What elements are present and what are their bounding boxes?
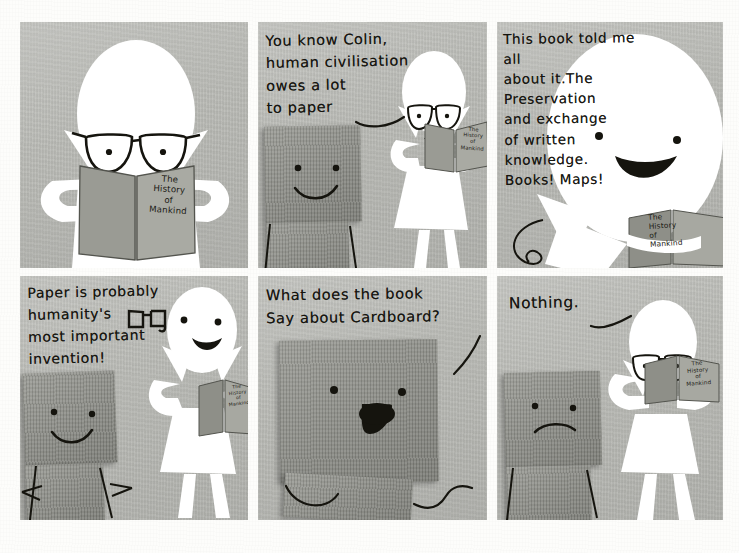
cardboard-limbs-p4 xyxy=(20,462,136,520)
comic-panel-2: You know Colin, human civilisation owes … xyxy=(258,22,487,268)
speech-tail-p6 xyxy=(589,312,635,332)
dialogue-p5: What does the book Say about Cardboard? xyxy=(266,281,483,330)
comic-panel-3: This book told me all about it.The Prese… xyxy=(497,22,723,268)
dialogue-p3: This book told me all about it.The Prese… xyxy=(503,27,657,190)
cardboard-face-p6 xyxy=(505,372,605,470)
cardboard-legs-p2 xyxy=(258,222,368,268)
cardboard-face-p5 xyxy=(280,340,440,486)
speech-tail-p5 xyxy=(450,334,484,384)
book-title-p6: The History of Mankind xyxy=(676,358,720,388)
book-title-p2: The History of Mankind xyxy=(455,125,487,152)
arm-swirl-p3 xyxy=(503,218,563,268)
book-title-p3: The History of Mankind xyxy=(648,210,710,250)
cardboard-face-p2 xyxy=(265,126,365,226)
comic-panel-1: The History of Mankind xyxy=(20,22,248,268)
comic-panel-4: Paper is probably humanity's most import… xyxy=(20,276,248,520)
cardboard-arms-p5 xyxy=(280,472,487,520)
comic-panel-6: Nothing. xyxy=(497,276,723,520)
speech-tail-p2 xyxy=(354,110,410,132)
book-title-p1: The History of Mankind xyxy=(139,172,199,217)
cardboard-face-p4 xyxy=(24,372,120,468)
cardboard-legs-p6 xyxy=(499,464,609,520)
book-title-p4: The History of Mankind xyxy=(221,382,248,408)
glasses-doodle-p4 xyxy=(125,306,171,334)
comic-strip: The History of Mankind You know Colin, h… xyxy=(0,0,739,553)
dialogue-p6: Nothing. xyxy=(509,291,659,315)
comic-panel-5: What does the book Say about Cardboard? xyxy=(258,276,487,520)
paper-person-p6 xyxy=(607,302,719,520)
dialogue-p2: You know Colin, human civilisation owes … xyxy=(265,26,477,120)
